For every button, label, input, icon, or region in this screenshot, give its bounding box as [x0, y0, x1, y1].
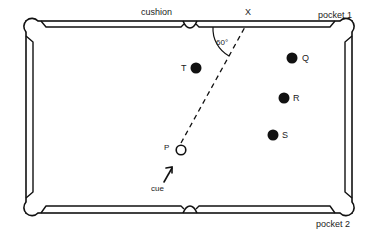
pocket-1-label: pocket 1 — [318, 10, 352, 20]
ball-label-R: R — [293, 93, 300, 103]
pocket-2-label: pocket 2 — [316, 219, 350, 229]
shot-path-dashed — [181, 27, 245, 143]
cue-arrow-icon — [164, 167, 172, 182]
ball-T — [191, 63, 202, 74]
x-point-label: X — [245, 7, 251, 17]
billiard-table-diagram: 60° T Q R S P cue cushion X pocket 1 poc… — [0, 0, 371, 236]
ball-Q — [287, 53, 298, 64]
ball-label-S: S — [282, 130, 288, 140]
ball-S — [268, 130, 279, 141]
pocket-bottom-right — [340, 202, 354, 216]
cushions — [26, 21, 352, 213]
table-frame — [26, 21, 352, 213]
pocket-top-left — [24, 18, 38, 32]
pocket-bottom-left — [24, 202, 38, 216]
cue-label: cue — [151, 184, 164, 193]
pocket-top-middle — [183, 21, 197, 28]
angle-label: 60° — [216, 38, 228, 47]
pocket-bottom-middle — [183, 206, 197, 213]
cushion-label: cushion — [141, 7, 172, 17]
ball-R — [279, 93, 290, 104]
pocket-top-right — [340, 18, 354, 32]
ball-label-Q: Q — [302, 53, 309, 63]
ball-P-cue-ball — [176, 145, 186, 155]
ball-label-P: P — [164, 143, 169, 152]
pockets — [24, 18, 354, 215]
ball-label-T: T — [181, 63, 187, 73]
